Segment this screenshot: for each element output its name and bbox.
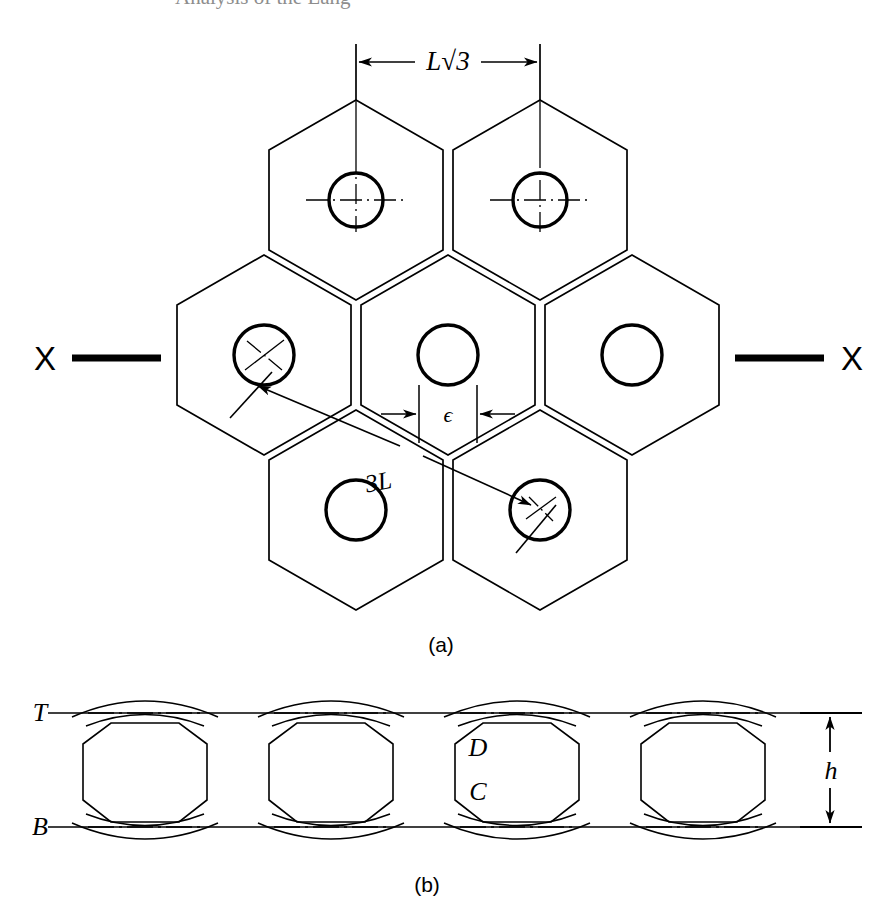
figure-canvas: L√3 ϵ 3L xyxy=(0,0,882,913)
reference-label-bottom-text: B xyxy=(32,812,48,841)
reference-lines xyxy=(48,713,836,827)
cell-octagons xyxy=(83,723,765,822)
gap-dimension-label: ϵ xyxy=(444,402,454,427)
hexagon-cell-bottom-right xyxy=(453,410,627,610)
reference-label-bottom: B xyxy=(32,812,48,841)
section-line-x-x: X X xyxy=(34,340,863,377)
hole-circles xyxy=(234,173,662,540)
height-dimension-label-text: h xyxy=(825,756,838,785)
section-label-right: X xyxy=(841,340,863,377)
section-label-right-text: X xyxy=(841,340,863,377)
figure-b-group: T B D C h (b) xyxy=(32,698,862,896)
section-label-left: X xyxy=(34,340,56,377)
diagonal-dimension-label-text: 3L xyxy=(362,466,394,498)
depth-label-lower: C xyxy=(469,777,487,806)
height-dimension-label: h xyxy=(825,756,838,785)
cell-inner-arcs xyxy=(86,715,762,826)
cell-octagon-1 xyxy=(83,723,207,822)
diagonal-dimension xyxy=(230,372,556,553)
cell-inner-arc-top-3 xyxy=(458,715,576,727)
pitch-dimension-label: L√3 xyxy=(425,46,469,76)
pitch-dimension-label-text: L√3 xyxy=(425,46,469,76)
figure-b-caption: (b) xyxy=(414,873,440,896)
diagonal-dimension-label: 3L xyxy=(362,466,394,498)
cell-octagon-4 xyxy=(641,723,765,822)
figure-a-caption: (a) xyxy=(428,633,454,656)
hole-circle-middle-center xyxy=(418,325,478,385)
hexagon-cell-middle-right xyxy=(545,255,719,455)
figure-a-caption-text: (a) xyxy=(428,633,454,656)
cell-inner-arc-top-2 xyxy=(272,715,390,727)
reference-label-top: T xyxy=(33,698,49,727)
crosshair-diagonal-b-bottom-right xyxy=(529,497,553,521)
hexagon-lattice xyxy=(177,100,719,610)
depth-label-upper: D xyxy=(468,733,488,762)
cell-octagon-2 xyxy=(269,723,393,822)
diagonal-arrow-lower-right xyxy=(423,456,531,505)
depth-label-upper-text: D xyxy=(468,733,488,762)
hole-circle-middle-right xyxy=(602,325,662,385)
cell-outer-arcs xyxy=(72,701,776,839)
depth-label-lower-text: C xyxy=(469,777,487,806)
centerline-crosshairs xyxy=(245,100,590,521)
technical-figure-page: Analysis of the Lang xyxy=(0,0,882,913)
cell-inner-arc-top-4 xyxy=(644,715,762,727)
diagonal-witness-tick-upper xyxy=(230,372,272,418)
gap-dimension-label-text: ϵ xyxy=(444,402,454,427)
figure-b-caption-text: (b) xyxy=(414,873,440,896)
hole-circle-bottom-right xyxy=(510,480,570,540)
crosshair-diagonal-a-bottom-right xyxy=(526,497,556,519)
cell-inner-arc-top-1 xyxy=(86,715,204,727)
reference-label-top-text: T xyxy=(33,698,49,727)
figure-a-group: L√3 ϵ 3L xyxy=(34,44,863,656)
hexagon-cell-bottom-left xyxy=(269,410,443,610)
section-label-left-text: X xyxy=(34,340,56,377)
